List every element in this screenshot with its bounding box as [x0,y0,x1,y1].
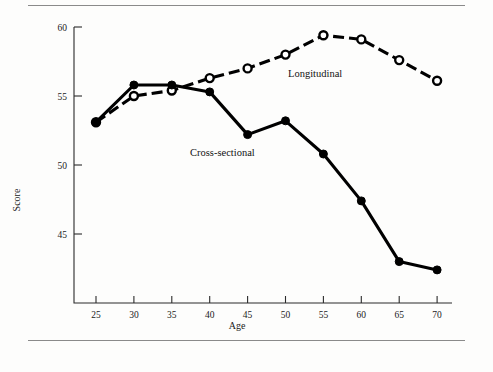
data-point-open [433,77,441,85]
x-tick-label: 65 [394,310,404,320]
data-point-filled [433,266,441,274]
data-point-filled [357,197,365,205]
y-tick-label: 50 [58,161,68,171]
x-tick-label: 50 [281,310,291,320]
series-line-cross-sectional [96,85,437,270]
x-tick-label: 40 [205,310,215,320]
series-line-longitudinal [96,35,437,122]
data-point-open [130,92,138,100]
y-tick-label: 60 [58,23,68,33]
data-point-filled [244,131,252,139]
x-tick-label: 45 [243,310,253,320]
y-tick-label: 55 [58,92,68,102]
x-tick-label: 30 [129,310,139,320]
data-point-filled [92,118,100,126]
data-point-filled [319,150,327,158]
figure-panel: 25303540455055606570 45505560 Score Age … [0,0,493,372]
x-tick-group: 25303540455055606570 [91,296,442,320]
data-point-open [395,56,403,64]
data-point-filled [206,88,214,96]
data-point-filled [168,81,176,89]
marker-group [92,31,441,274]
x-tick-label: 25 [91,310,101,320]
y-axis-title: Score [11,188,22,211]
data-point-filled [395,258,403,266]
x-tick-label: 55 [319,310,329,320]
data-point-open [244,64,252,72]
x-axis-title: Age [229,320,246,331]
data-point-open [206,74,214,82]
data-point-open [319,31,327,39]
data-point-filled [130,81,138,89]
series-label-longitudinal: Longitudinal [288,68,342,79]
data-point-filled [282,117,290,125]
y-tick-label: 45 [58,230,68,240]
series-label-cross-sectional: Cross-sectional [190,147,255,158]
data-point-open [357,35,365,43]
data-point-open [282,51,290,59]
x-tick-label: 60 [357,310,367,320]
line-chart: 25303540455055606570 45505560 Score Age … [0,0,493,372]
y-tick-group: 45505560 [58,23,83,240]
x-tick-label: 70 [432,310,442,320]
x-tick-label: 35 [167,310,177,320]
series-group [96,35,437,270]
